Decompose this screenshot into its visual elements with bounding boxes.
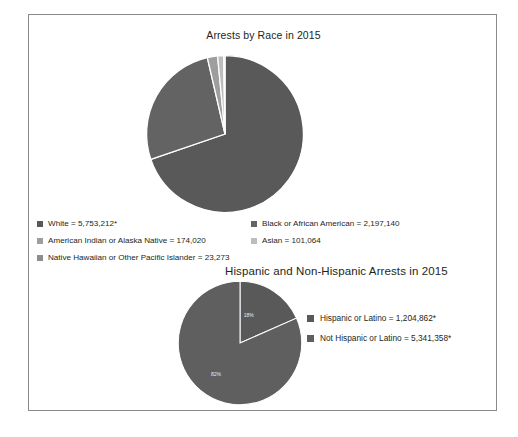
chart1-legend: White = 5,753,212* Black or African Amer… — [37, 219, 492, 270]
legend-item-american-indian-or-alaska-native[interactable]: American Indian or Alaska Native = 174,0… — [37, 236, 251, 246]
legend-swatch-icon — [37, 255, 43, 261]
chart2-pie: 18%82% — [177, 280, 303, 406]
chart1-pie — [145, 54, 305, 214]
legend-row: Hispanic or Latino = 1,204,862* — [307, 313, 451, 323]
legend-row: White = 5,753,212* Black or African Amer… — [37, 219, 492, 229]
chart2-legend: Hispanic or Latino = 1,204,862* Not Hisp… — [307, 313, 451, 353]
legend-label: Native Hawaiian or Other Pacific Islande… — [48, 253, 230, 263]
legend-item-black-or-african-american[interactable]: Black or African American = 2,197,140 — [251, 219, 399, 229]
chart2-title: Hispanic and Non-Hispanic Arrests in 201… — [225, 265, 448, 277]
chart1-title: Arrests by Race in 2015 — [29, 29, 497, 41]
legend-label: Black or African American = 2,197,140 — [262, 219, 399, 229]
slice-label-not-hispanic: 82% — [211, 371, 222, 377]
legend-label: White = 5,753,212* — [48, 219, 117, 229]
legend-row: Native Hawaiian or Other Pacific Islande… — [37, 253, 492, 263]
legend-item-asian[interactable]: Asian = 101,064 — [251, 236, 321, 246]
figure-container: Arrests by Race in 2015 White = 5,753,21… — [28, 14, 497, 411]
legend-item-not-hispanic-or-latino[interactable]: Not Hispanic or Latino = 5,341,358* — [307, 333, 451, 343]
legend-label: Hispanic or Latino = 1,204,862* — [320, 313, 436, 323]
legend-row: Not Hispanic or Latino = 5,341,358* — [307, 333, 451, 343]
legend-swatch-icon — [307, 335, 314, 342]
legend-item-native-hawaiian-or-other-pacific-islander[interactable]: Native Hawaiian or Other Pacific Islande… — [37, 253, 251, 263]
legend-label: Not Hispanic or Latino = 5,341,358* — [320, 333, 451, 343]
slice-label-hispanic: 18% — [244, 312, 255, 318]
legend-label: American Indian or Alaska Native = 174,0… — [48, 236, 206, 246]
legend-swatch-icon — [251, 221, 257, 227]
legend-swatch-icon — [307, 315, 314, 322]
legend-label: Asian = 101,064 — [262, 236, 321, 246]
legend-swatch-icon — [37, 221, 43, 227]
legend-swatch-icon — [37, 238, 43, 244]
legend-swatch-icon — [251, 238, 257, 244]
legend-item-hispanic-or-latino[interactable]: Hispanic or Latino = 1,204,862* — [307, 313, 436, 323]
chart2-pie-svg: 18%82% — [177, 280, 303, 406]
legend-item-white[interactable]: White = 5,753,212* — [37, 219, 251, 229]
legend-row: American Indian or Alaska Native = 174,0… — [37, 236, 492, 246]
chart1-pie-svg — [145, 54, 305, 214]
